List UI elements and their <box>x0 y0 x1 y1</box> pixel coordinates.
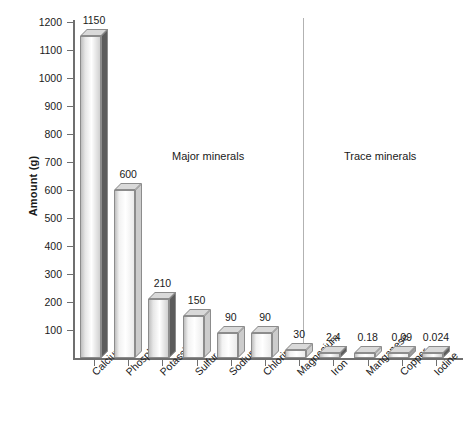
bar-front-face <box>422 353 443 358</box>
y-tick-label-wrap: 1000 <box>0 73 74 84</box>
bar-front-face <box>285 350 306 358</box>
bar-chart: Amount (g) 10020030040050060070080090010… <box>0 0 476 430</box>
group-label-major: Major minerals <box>172 150 244 162</box>
bar-value-label: 1150 <box>70 15 118 26</box>
bar-value-label: 90 <box>241 312 289 323</box>
y-tick-label-wrap: 700 <box>0 157 74 168</box>
bar-iron <box>319 346 347 358</box>
bar-front-face <box>217 333 238 358</box>
bar-value-label: 600 <box>104 169 152 180</box>
y-tick-label-wrap: 1100 <box>0 45 74 56</box>
y-tick-label: 800 <box>22 129 62 140</box>
y-tick-label: 600 <box>22 185 62 196</box>
y-tick-label: 1000 <box>22 73 62 84</box>
y-tick-label-wrap: 500 <box>0 213 74 224</box>
y-tick-label-wrap: 200 <box>0 297 74 308</box>
y-tick-label: 100 <box>22 325 62 336</box>
bar-value-label: 150 <box>173 295 221 306</box>
y-tick-label-wrap: 800 <box>0 129 74 140</box>
y-tick-label: 300 <box>22 269 62 280</box>
bar-calcium <box>80 29 108 358</box>
bar-value-label: 210 <box>138 278 186 289</box>
bar-phosphorus <box>114 183 142 358</box>
bar-front-face <box>388 353 409 358</box>
bar-front-face <box>354 353 375 358</box>
y-tick-label-wrap: 300 <box>0 269 74 280</box>
bar-front-face <box>148 299 169 358</box>
bar-value-label: 0.024 <box>412 332 460 343</box>
y-tick-label: 400 <box>22 241 62 252</box>
bar-front-face <box>251 333 272 358</box>
bar-front-face <box>319 353 340 358</box>
y-tick-label: 200 <box>22 297 62 308</box>
y-tick-label: 1100 <box>22 45 62 56</box>
y-tick-label: 500 <box>22 213 62 224</box>
y-tick-label-wrap: 100 <box>0 325 74 336</box>
bar-side-face <box>101 29 108 358</box>
bar-side-face <box>135 183 142 358</box>
group-divider-line <box>303 18 304 358</box>
y-tick-label: 900 <box>22 101 62 112</box>
y-tick-label: 1200 <box>22 17 62 28</box>
y-tick-label-wrap: 600 <box>0 185 74 196</box>
bar-front-face <box>80 36 101 358</box>
y-tick-label-wrap: 900 <box>0 101 74 112</box>
bar-front-face <box>183 316 204 358</box>
bar-front-face <box>114 190 135 358</box>
group-label-trace: Trace minerals <box>344 150 416 162</box>
y-tick-label-wrap: 1200 <box>0 17 74 28</box>
y-tick-label-wrap: 400 <box>0 241 74 252</box>
y-tick-label: 700 <box>22 157 62 168</box>
